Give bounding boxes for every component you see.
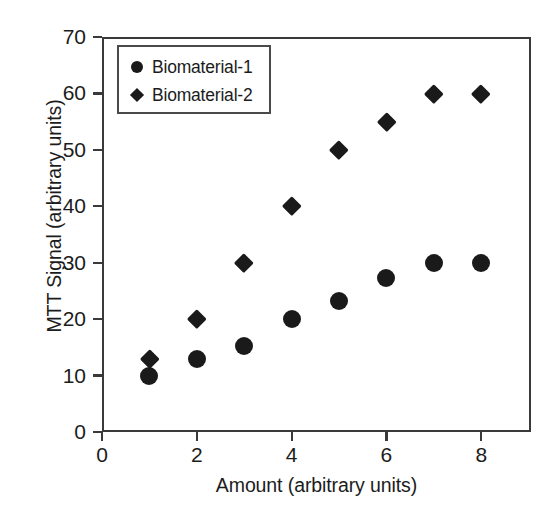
y-tick-mark <box>93 318 102 320</box>
legend-entry-2: Biomaterial-2 <box>127 81 269 109</box>
y-tick-label: 40 <box>26 195 86 216</box>
x-tick-label: 0 <box>72 444 132 465</box>
y-tick-mark <box>93 262 102 264</box>
data-point-diamond <box>377 112 396 131</box>
data-point-diamond <box>282 197 301 216</box>
legend-box: Biomaterial-1Biomaterial-2 <box>117 45 271 114</box>
y-tick-label: 30 <box>26 252 86 273</box>
data-point-circle <box>377 269 395 287</box>
y-tick-label: 0 <box>26 421 86 442</box>
y-tick-label: 60 <box>26 82 86 103</box>
data-point-circle <box>425 254 443 272</box>
data-point-diamond <box>235 253 254 272</box>
x-tick-label: 8 <box>451 444 511 465</box>
y-tick-label: 70 <box>26 26 86 47</box>
x-tick-label: 4 <box>262 444 322 465</box>
data-point-diamond <box>187 310 206 329</box>
y-tick-mark <box>93 374 102 376</box>
y-tick-mark <box>93 205 102 207</box>
y-tick-mark <box>93 92 102 94</box>
legend-label: Biomaterial-2 <box>152 85 253 106</box>
data-point-circle <box>472 254 490 272</box>
data-point-diamond <box>329 140 348 159</box>
data-point-diamond <box>472 84 491 103</box>
data-point-circle <box>188 350 206 368</box>
legend-label: Biomaterial-1 <box>152 57 253 78</box>
legend-marker-circle-icon <box>127 57 147 77</box>
y-tick-label: 20 <box>26 308 86 329</box>
y-tick-label: 10 <box>26 365 86 386</box>
x-tick-label: 2 <box>167 444 227 465</box>
x-tick-mark <box>101 432 103 441</box>
x-tick-mark <box>385 432 387 441</box>
y-tick-mark <box>93 149 102 151</box>
data-point-diamond <box>424 84 443 103</box>
x-tick-mark <box>291 432 293 441</box>
legend-entry-1: Biomaterial-1 <box>127 53 269 81</box>
x-tick-mark <box>196 432 198 441</box>
x-axis-title: Amount (arbitrary units) <box>102 474 531 497</box>
data-point-diamond <box>140 349 159 368</box>
y-tick-mark <box>93 36 102 38</box>
x-tick-mark <box>480 432 482 441</box>
x-tick-label: 6 <box>356 444 416 465</box>
y-tick-label: 50 <box>26 139 86 160</box>
scatter-plot-figure: MTT Signal (arbitrary units) Amount (arb… <box>0 0 559 527</box>
legend-marker-diamond-icon <box>127 85 147 105</box>
data-point-circle <box>283 310 301 328</box>
data-point-circle <box>140 367 158 385</box>
data-point-circle <box>330 292 348 310</box>
data-point-circle <box>235 337 253 355</box>
